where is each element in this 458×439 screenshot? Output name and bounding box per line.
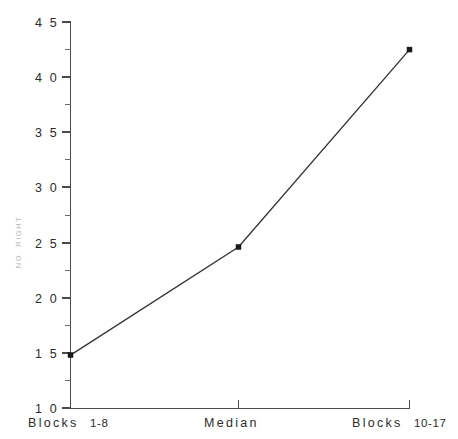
y-tick-label: 3 5: [35, 126, 59, 140]
data-point-marker: [68, 353, 73, 358]
y-tick-label: 2 5: [35, 237, 59, 251]
x-tick-lead: Median: [204, 416, 259, 430]
y-tick-label: 3 0: [35, 181, 59, 195]
x-tick-trail: 10-17: [414, 417, 446, 429]
x-tick-lead: Blocks: [352, 416, 403, 430]
y-tick-label: 4 0: [35, 71, 59, 85]
y-tick-label: 4 5: [35, 16, 59, 30]
chart-figure: 4 5 4 0 3 5 3 0 2 5 2 0 1 5 1 0 NO. RIGH…: [0, 0, 458, 439]
line-chart-svg: 4 5 4 0 3 5 3 0 2 5 2 0 1 5 1 0 NO. RIGH…: [0, 0, 458, 439]
x-axis-tick-labels: Blocks 1-8 Median Blocks 10-17: [28, 416, 447, 430]
y-tick-label: 1 0: [35, 402, 59, 416]
y-tick-label: 2 0: [35, 292, 59, 306]
y-tick-label: 1 5: [35, 347, 59, 361]
y-axis-title: NO. RIGHT: [14, 216, 23, 268]
data-point-marker: [407, 47, 412, 52]
x-tick-label-blocks-10-17: Blocks 10-17: [352, 416, 447, 430]
x-tick-trail: 1-8: [90, 417, 108, 429]
x-tick-lead: Blocks: [28, 416, 79, 430]
x-tick-label-median: Median: [204, 416, 259, 430]
data-point-marker: [236, 244, 241, 249]
x-tick-label-blocks-1-8: Blocks 1-8: [28, 416, 109, 430]
chart-background: [0, 0, 458, 439]
